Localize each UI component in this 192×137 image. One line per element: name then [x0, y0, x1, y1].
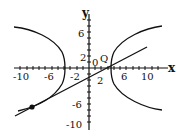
point-q-label: Q: [100, 53, 108, 64]
svg-text:-6: -6: [44, 71, 54, 82]
tangent-point: [29, 104, 34, 109]
svg-text:-10: -10: [13, 71, 29, 82]
origin-label: 0: [92, 57, 98, 68]
y-axis-label: y: [81, 6, 90, 20]
svg-text:10: 10: [141, 71, 154, 82]
svg-text:2: 2: [80, 52, 86, 63]
svg-text:-10: -10: [66, 119, 82, 130]
svg-text:6: 6: [121, 71, 127, 82]
x-axis-label: x: [168, 61, 176, 75]
svg-text:-2: -2: [70, 71, 80, 82]
graph: x y 0 Q -10 -6 -2 2 6 10 6 2 -6 -10: [0, 0, 192, 137]
svg-text:-6: -6: [72, 99, 82, 110]
svg-text:6: 6: [78, 28, 84, 39]
x-tick-labels: -10 -6 -2 2 6 10: [13, 71, 154, 86]
svg-text:2: 2: [97, 75, 103, 86]
